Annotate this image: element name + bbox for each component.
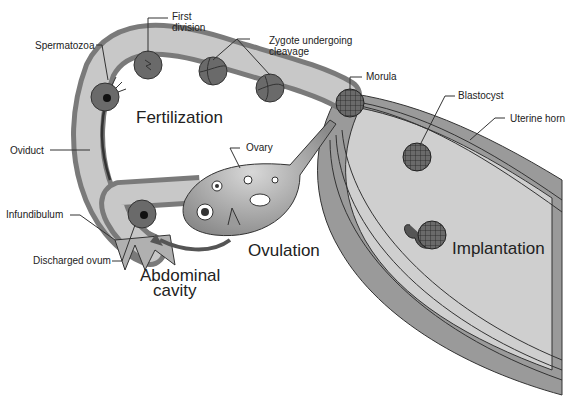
label-first-division-line1: First [172, 11, 192, 22]
label-discharged-ovum: Discharged ovum [33, 255, 111, 266]
zygote-cleavage-cell-2 [256, 74, 284, 102]
label-spermatozoa: Spermatozoa [35, 40, 95, 51]
reproductive-tract-diagram: Spermatozoa First division Zygote underg… [0, 0, 573, 401]
label-morula: Morula [366, 71, 397, 82]
label-zygote-line2: cleavage [269, 46, 309, 57]
region-abdominal-line2: cavity [153, 281, 197, 300]
label-uterine-horn: Uterine horn [510, 113, 565, 124]
blastocyst [403, 143, 431, 171]
region-fertilization: Fertilization [136, 108, 223, 127]
region-ovulation: Ovulation [248, 241, 320, 260]
label-ovary: Ovary [246, 142, 273, 153]
label-zygote-line1: Zygote undergoing [269, 35, 352, 46]
label-blastocyst: Blastocyst [458, 90, 504, 101]
discharged-ovum [128, 200, 156, 228]
label-infundibulum: Infundibulum [6, 209, 63, 220]
ovary [183, 120, 336, 236]
region-implantation: Implantation [452, 239, 545, 258]
label-first-division-line2: division [172, 22, 205, 33]
label-oviduct: Oviduct [10, 145, 44, 156]
zygote-cleavage-cell-1 [199, 57, 227, 85]
first-division-cell [134, 51, 162, 79]
morula [336, 89, 364, 117]
